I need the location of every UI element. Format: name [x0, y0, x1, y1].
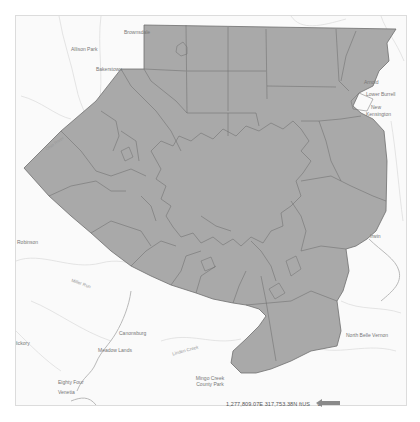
place-label: Canonsburg [119, 330, 146, 336]
map-view[interactable]: Brownsdale Allison Park Bakerstown Arnol… [15, 15, 407, 406]
coordinate-status-bar: 1,277,809.07E 317,753.38N ftUS ⌄ [226, 397, 322, 411]
place-label: New [371, 104, 381, 110]
place-label: Robinson [17, 239, 38, 245]
place-label: Hickory [15, 340, 30, 346]
place-label: Mingo Creek County Park [192, 375, 228, 387]
place-label: Kensington [366, 111, 391, 117]
place-label: Arnold [364, 79, 378, 85]
place-label: Bakerstown [96, 66, 122, 72]
place-label: Lower Burrell [366, 91, 395, 97]
place-label: Irwin [370, 233, 381, 239]
place-label: Meadow Lands [98, 347, 132, 353]
cursor-coordinates: 1,277,809.07E 317,753.38N ftUS [226, 401, 310, 407]
place-label: Brownsdale [124, 29, 150, 35]
map-canvas[interactable] [16, 16, 406, 405]
county-boundary[interactable] [24, 25, 396, 373]
place-label: Allison Park [71, 46, 97, 52]
place-label: Eighty Four [58, 379, 84, 385]
place-label: Venetia [58, 389, 75, 395]
place-label: North Belle Vernon [346, 332, 388, 338]
arrow-left-icon [316, 399, 340, 407]
